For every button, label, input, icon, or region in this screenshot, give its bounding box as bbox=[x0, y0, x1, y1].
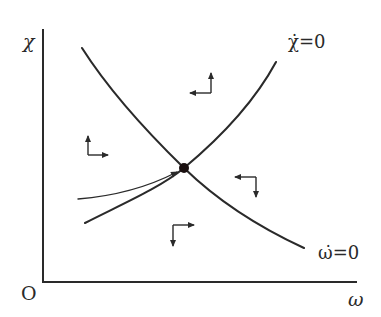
phase-diagram: χ O ω ω̇=0 χ̇=0 bbox=[0, 0, 381, 317]
saddle-path bbox=[78, 172, 177, 199]
direction-arrow-left-region bbox=[88, 136, 108, 155]
equilibrium-dot bbox=[179, 163, 189, 173]
omega-dot-zero-curve bbox=[82, 48, 304, 248]
x-axis-label: ω bbox=[348, 288, 364, 310]
direction-arrow-bottom-region bbox=[173, 225, 194, 246]
direction-arrow-right-region bbox=[235, 177, 256, 197]
direction-arrow-top-region bbox=[190, 73, 211, 93]
origin-label: O bbox=[21, 282, 37, 304]
chi-dot-zero-label: χ̇=0 bbox=[288, 31, 325, 52]
y-axis-label: χ bbox=[21, 30, 36, 52]
omega-dot-zero-label: ω̇=0 bbox=[318, 242, 359, 263]
chi-dot-zero-curve bbox=[85, 62, 276, 223]
